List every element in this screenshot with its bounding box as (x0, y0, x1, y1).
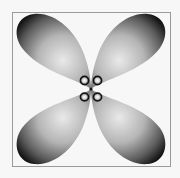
orbital-figure (0, 0, 180, 178)
inner-lobe-bottom-right (93, 93, 101, 101)
nucleus-point (89, 87, 92, 90)
inner-lobe-top-right (93, 76, 101, 84)
inner-lobe-top-left (80, 76, 88, 84)
orbital-diagram (0, 0, 180, 178)
inner-lobe-bottom-left (80, 93, 88, 101)
